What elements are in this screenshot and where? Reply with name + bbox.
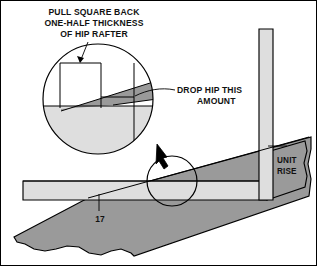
- pull-square-label-line3: OF HIP RAFTER: [60, 29, 128, 39]
- pull-square-label-line1: PULL SQUARE BACK: [48, 7, 140, 17]
- drop-hip-label-line1: DROP HIP THIS: [177, 85, 242, 95]
- unit-rise-label-line2: RISE: [277, 167, 297, 176]
- magnified-detail-contents: [31, 63, 201, 176]
- level-plate-band: [23, 181, 267, 200]
- unit-rise-post: [259, 29, 273, 200]
- callout-arrow: [156, 144, 168, 169]
- unit-run-label: 17: [95, 214, 105, 224]
- drop-hip-label-line2: AMOUNT: [197, 96, 236, 106]
- pull-square-leader-arrowhead: [77, 56, 84, 63]
- diagram-frame: 17 UNIT RISE: [0, 0, 317, 266]
- hip-rafter-diagram: 17 UNIT RISE: [1, 1, 316, 265]
- pull-square-label-line2: ONE-HALF THICKNESS: [44, 18, 143, 28]
- inset-lower-fill: [31, 106, 201, 176]
- unit-rise-label-line1: UNIT: [277, 156, 297, 165]
